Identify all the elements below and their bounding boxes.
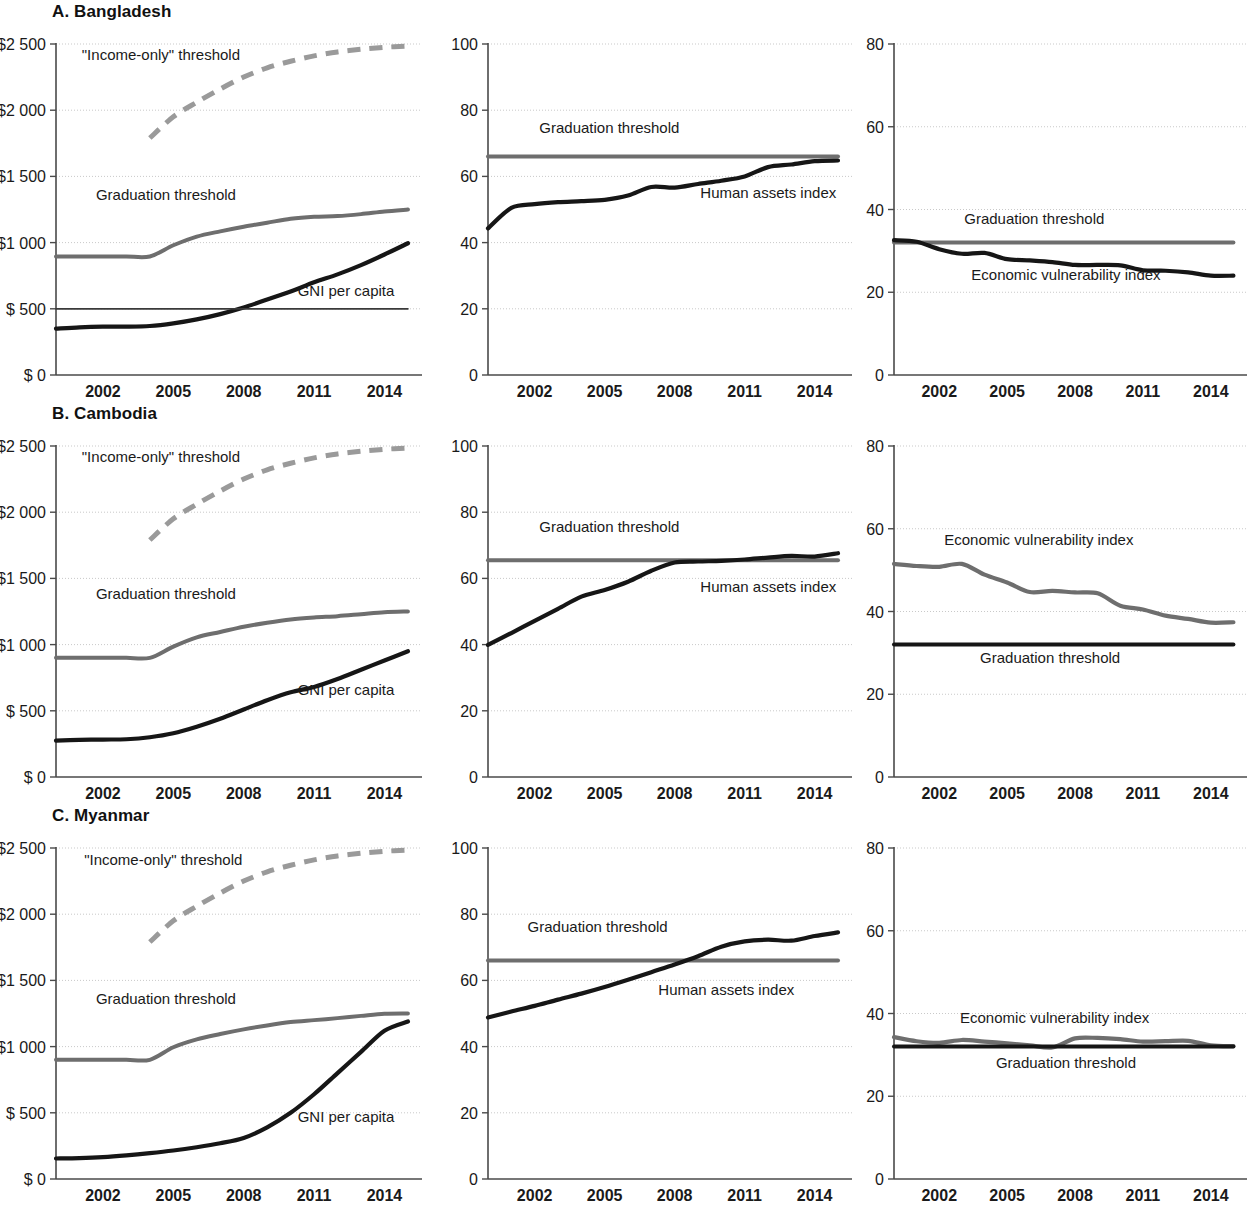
x-tick-label-2011: 2011 [727, 383, 762, 400]
annotation-label: Graduation threshold [96, 990, 236, 1007]
x-tick-label-2005: 2005 [587, 785, 623, 802]
series-line-graduation-threshold [56, 1014, 408, 1061]
y-tick-label-100: 100 [451, 438, 478, 455]
annotation-label: GNI per capita [298, 1108, 395, 1125]
y-tick-label-2500: $2 500 [0, 438, 46, 455]
panel-row-b: B. Cambodia $ 0$ 500$1 000$1 500$2 000$2… [0, 402, 1255, 804]
y-tick-label-1500: $1 500 [0, 570, 46, 587]
y-tick-label-0: $ 0 [24, 769, 46, 786]
y-tick-label-60: 60 [460, 168, 478, 185]
x-tick-label-2008: 2008 [657, 383, 693, 400]
y-tick-label-0: 0 [875, 769, 884, 786]
annotation-label: Graduation threshold [964, 210, 1104, 227]
y-tick-label-40: 40 [460, 637, 478, 654]
x-tick-label-2002: 2002 [517, 383, 553, 400]
chart-svg-B-gni: $ 0$ 500$1 000$1 500$2 000$2 50020022005… [0, 402, 430, 804]
chart-svg-C-evi: 02040608020022005200820112014Economic vu… [855, 804, 1255, 1206]
x-tick-label-2008: 2008 [1057, 1187, 1093, 1204]
x-tick-label-2014: 2014 [1193, 383, 1229, 400]
x-tick-label-2008: 2008 [1057, 785, 1093, 802]
annotation-label: Human assets index [700, 184, 836, 201]
y-tick-label-1500: $1 500 [0, 972, 46, 989]
annotation-label: Economic vulnerability index [944, 531, 1134, 548]
x-tick-label-2005: 2005 [156, 785, 192, 802]
y-tick-label-500: $ 500 [6, 301, 46, 318]
x-tick-label-2008: 2008 [1057, 383, 1093, 400]
y-tick-label-2000: $2 000 [0, 906, 46, 923]
y-tick-label-100: 100 [451, 840, 478, 857]
x-tick-label-2002: 2002 [517, 785, 553, 802]
chart-svg-B-hai: 02040608010020022005200820112014Graduati… [440, 402, 860, 804]
y-tick-label-2500: $2 500 [0, 840, 46, 857]
series-line-economic-vulnerability-index [894, 564, 1233, 623]
y-tick-label-100: 100 [451, 36, 478, 53]
chart-c-evi: 02040608020022005200820112014Economic vu… [855, 804, 1255, 1206]
series-line-gni-per-capita [56, 1021, 408, 1158]
series-line-graduation-threshold [56, 210, 408, 258]
x-tick-label-2011: 2011 [297, 1187, 332, 1204]
x-tick-label-2011: 2011 [727, 785, 762, 802]
ldc-graduation-criteria-figure: A. Bangladesh $ 0$ 500$1 000$1 500$2 000… [0, 0, 1255, 1206]
y-tick-label-80: 80 [460, 102, 478, 119]
x-tick-label-2008: 2008 [226, 785, 262, 802]
y-tick-label-0: 0 [469, 367, 478, 384]
chart-svg-A-evi: 02040608020022005200820112014Graduation … [855, 0, 1255, 402]
y-tick-label-1500: $1 500 [0, 168, 46, 185]
y-tick-label-2000: $2 000 [0, 504, 46, 521]
x-tick-label-2008: 2008 [657, 1187, 693, 1204]
chart-a-evi: 02040608020022005200820112014Graduation … [855, 0, 1255, 402]
y-tick-label-80: 80 [866, 438, 884, 455]
x-tick-label-2011: 2011 [1126, 785, 1161, 802]
x-tick-label-2014: 2014 [797, 1187, 833, 1204]
x-tick-label-2008: 2008 [226, 1187, 262, 1204]
x-tick-label-2005: 2005 [156, 383, 192, 400]
y-tick-label-60: 60 [460, 972, 478, 989]
annotation-label: Graduation threshold [996, 1054, 1136, 1071]
x-tick-label-2002: 2002 [85, 785, 121, 802]
x-tick-label-2014: 2014 [797, 383, 833, 400]
panel-row-c: C. Myanmar $ 0$ 500$1 000$1 500$2 000$2 … [0, 804, 1255, 1206]
y-tick-label-0: 0 [875, 1171, 884, 1188]
x-tick-label-2014: 2014 [367, 785, 403, 802]
x-tick-label-2002: 2002 [85, 383, 121, 400]
annotation-label: Economic vulnerability index [960, 1009, 1150, 1026]
x-tick-label-2011: 2011 [297, 785, 332, 802]
y-tick-label-0: $ 0 [24, 367, 46, 384]
y-tick-label-80: 80 [866, 840, 884, 857]
y-tick-label-40: 40 [460, 1039, 478, 1056]
y-tick-label-1000: $1 000 [0, 1039, 46, 1056]
x-tick-label-2002: 2002 [921, 1187, 957, 1204]
panel-row-a: A. Bangladesh $ 0$ 500$1 000$1 500$2 000… [0, 0, 1255, 402]
x-tick-label-2005: 2005 [989, 785, 1025, 802]
y-tick-label-1000: $1 000 [0, 637, 46, 654]
y-tick-label-2000: $2 000 [0, 102, 46, 119]
x-tick-label-2002: 2002 [921, 383, 957, 400]
chart-c-gni: $ 0$ 500$1 000$1 500$2 000$2 50020022005… [0, 804, 430, 1206]
x-tick-label-2008: 2008 [226, 383, 262, 400]
x-tick-label-2014: 2014 [367, 1187, 403, 1204]
annotation-label: Graduation threshold [539, 119, 679, 136]
x-tick-label-2014: 2014 [367, 383, 403, 400]
chart-b-hai: 02040608010020022005200820112014Graduati… [440, 402, 860, 804]
annotation-label: "Income-only" threshold [82, 46, 240, 63]
x-tick-label-2005: 2005 [587, 383, 623, 400]
y-tick-label-0: 0 [469, 1171, 478, 1188]
x-tick-label-2002: 2002 [517, 1187, 553, 1204]
annotation-label: "Income-only" threshold [84, 851, 242, 868]
chart-c-hai: 02040608010020022005200820112014Graduati… [440, 804, 860, 1206]
chart-svg-C-gni: $ 0$ 500$1 000$1 500$2 000$2 50020022005… [0, 804, 430, 1206]
annotation-label: Economic vulnerability index [971, 266, 1161, 283]
x-tick-label-2014: 2014 [1193, 1187, 1229, 1204]
chart-b-evi: 02040608020022005200820112014Economic vu… [855, 402, 1255, 804]
y-tick-label-20: 20 [460, 301, 478, 318]
x-tick-label-2011: 2011 [1126, 1187, 1161, 1204]
x-tick-label-2011: 2011 [297, 383, 332, 400]
y-tick-label-500: $ 500 [6, 703, 46, 720]
x-tick-label-2005: 2005 [989, 1187, 1025, 1204]
y-tick-label-80: 80 [866, 36, 884, 53]
y-tick-label-20: 20 [866, 1088, 884, 1105]
x-tick-label-2014: 2014 [1193, 785, 1229, 802]
y-tick-label-60: 60 [866, 521, 884, 538]
annotation-label: GNI per capita [298, 681, 395, 698]
chart-svg-C-hai: 02040608010020022005200820112014Graduati… [440, 804, 860, 1206]
